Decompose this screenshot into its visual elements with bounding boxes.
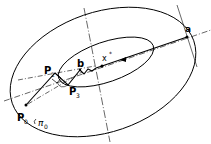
label-xstar-sup: * [109,50,112,57]
conjugate-line-xstar [84,8,110,142]
point-xstar [101,65,104,68]
label-xstar: x [102,54,107,63]
search-direction-line [102,37,187,66]
iteration-path [26,66,102,105]
label-p0-sub: 0 [24,118,28,125]
label-p2-sub: 2 [51,71,55,78]
point-b [79,69,81,71]
outer-level-ellipse [0,0,211,144]
label-b: b [77,58,84,69]
ellipse-iteration-diagram: a b x * P 2 P 3 P 0 π 0 [0,0,211,144]
pi0-tick [34,119,36,124]
label-a: a [185,24,191,34]
point-p0 [25,104,28,107]
label-pi0-sub: 0 [44,123,48,130]
point-a [186,36,189,39]
label-p3-sub: 3 [76,92,80,99]
